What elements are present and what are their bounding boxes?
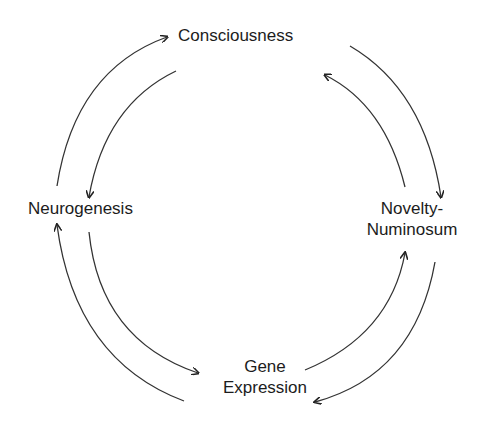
node-label-line-2: Expression — [223, 377, 307, 398]
node-label-line-1: Gene — [223, 356, 307, 377]
arrow-gene-to-neurogenesis — [57, 225, 184, 401]
node-label-line-1: Novelty- — [367, 198, 458, 219]
arrow-novelty-to-consciousness — [325, 75, 405, 187]
node-label: Consciousness — [178, 25, 293, 46]
arrow-neurogenesis-to-gene — [89, 232, 198, 373]
node-label: Neurogenesis — [28, 198, 133, 219]
node-gene-expression: Gene Expression — [223, 356, 307, 398]
node-consciousness: Consciousness — [178, 25, 293, 46]
cycle-diagram: Consciousness Neurogenesis Novelty- Numi… — [0, 0, 482, 438]
node-label-line-2: Numinosum — [367, 219, 458, 240]
arrow-novelty-to-gene — [315, 262, 435, 402]
node-novelty-numinosum: Novelty- Numinosum — [367, 198, 458, 240]
node-neurogenesis: Neurogenesis — [28, 198, 133, 219]
arrow-gene-to-novelty — [305, 253, 405, 370]
arrow-consciousness-to-novelty — [350, 46, 441, 197]
arrow-neurogenesis-to-consciousness — [57, 37, 167, 186]
arrow-consciousness-to-neurogenesis — [89, 71, 176, 197]
